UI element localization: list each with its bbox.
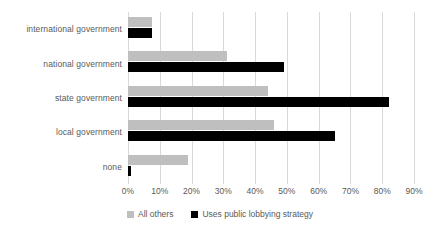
legend-label: Uses public lobbying strategy (202, 209, 313, 219)
category-label: international government (0, 12, 122, 46)
plot-area (128, 12, 414, 184)
x-tick-label: 40% (247, 186, 264, 196)
gridline (414, 12, 415, 184)
x-tick-label: 0% (122, 186, 134, 196)
bar-group (128, 150, 414, 184)
bar (128, 28, 152, 38)
legend-label: All others (138, 209, 173, 219)
bar-group (128, 115, 414, 149)
legend-entry[interactable]: All others (127, 209, 173, 219)
x-tick-label: 90% (405, 186, 422, 196)
category-label: national government (0, 46, 122, 80)
bar-chart: international governmentnational governm… (0, 0, 440, 236)
legend-entry[interactable]: Uses public lobbying strategy (191, 209, 313, 219)
bar (128, 17, 152, 27)
bar (128, 62, 284, 72)
x-tick-label: 70% (342, 186, 359, 196)
legend-swatch-icon (191, 211, 198, 218)
bar (128, 86, 268, 96)
bar-group (128, 12, 414, 46)
x-tick-label: 80% (374, 186, 391, 196)
chart-legend: All othersUses public lobbying strategy (0, 209, 440, 219)
bar (128, 51, 227, 61)
bar (128, 155, 188, 165)
x-tick-label: 30% (215, 186, 232, 196)
bar (128, 120, 274, 130)
bar (128, 131, 335, 141)
category-label: none (0, 150, 122, 184)
x-tick-label: 60% (310, 186, 327, 196)
category-label: local government (0, 115, 122, 149)
bar (128, 166, 131, 176)
x-tick-label: 20% (183, 186, 200, 196)
bar-group (128, 46, 414, 80)
legend-swatch-icon (127, 211, 134, 218)
category-label: state government (0, 81, 122, 115)
x-tick-label: 10% (151, 186, 168, 196)
bar-group (128, 81, 414, 115)
category-axis: international governmentnational governm… (0, 12, 122, 184)
bar (128, 97, 389, 107)
value-axis: 0%10%20%30%40%50%60%70%80%90% (128, 186, 414, 200)
x-tick-label: 50% (278, 186, 295, 196)
